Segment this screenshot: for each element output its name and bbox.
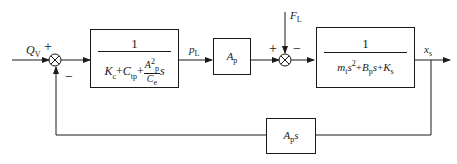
area-gain-block: Ap (213, 38, 251, 75)
sum1-plus-sign: + (44, 40, 52, 54)
flow-block-numerator: 1 (91, 36, 178, 52)
fraction-bar (324, 52, 407, 53)
load-transfer-block: 1 mts2+Bps+Ks (316, 27, 415, 88)
flow-block-denominator: Kc+Ctp+A2pCes (91, 58, 178, 87)
load-block-denominator: mts2+Bps+Ks (317, 59, 414, 76)
disturbance-signal-label: FL (290, 10, 302, 24)
sum1-minus-sign: − (65, 70, 73, 84)
pressure-signal-label: pL (189, 44, 199, 58)
feedback-block-label: Aps (267, 130, 315, 144)
output-signal-label: xs (424, 44, 432, 58)
feedback-block: Aps (266, 118, 316, 154)
area-gain-label: Ap (214, 51, 250, 65)
load-block-numerator: 1 (317, 36, 414, 52)
flow-transfer-block: 1 Kc+Ctp+A2pCes (90, 29, 179, 88)
fraction-bar (98, 51, 171, 52)
input-signal-label: QV (26, 44, 40, 59)
sum2-minus-sign: − (293, 42, 301, 56)
sum2-plus-sign: + (269, 42, 277, 56)
